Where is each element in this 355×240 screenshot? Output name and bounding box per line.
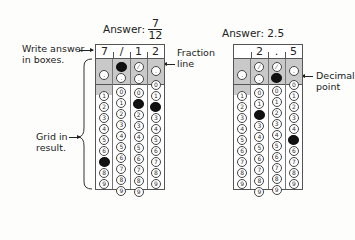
digit-bubble[interactable]: 9 bbox=[289, 179, 299, 189]
digit-bubble[interactable]: 7 bbox=[116, 164, 126, 174]
digit-bubble[interactable]: 0 bbox=[116, 87, 126, 97]
digit-bubble[interactable]: 7 bbox=[254, 165, 264, 175]
digit-bubble[interactable]: 7 bbox=[237, 157, 247, 167]
digit-bubble[interactable]: 5 bbox=[99, 135, 109, 145]
digit-bubble[interactable]: 6 bbox=[99, 146, 109, 156]
digit-bubble[interactable]: 2 bbox=[134, 110, 144, 120]
digit-bubble[interactable]: 1 bbox=[289, 91, 299, 101]
digit-bubble[interactable]: 2 bbox=[272, 108, 282, 118]
digit-bubble[interactable]: 6 bbox=[134, 154, 144, 164]
digit-bubble[interactable]: 8 bbox=[272, 174, 282, 184]
decimal-bubble-filled[interactable]: . bbox=[271, 73, 282, 83]
digit-bubble[interactable]: 9 bbox=[237, 179, 247, 189]
digit-bubble[interactable]: 1 bbox=[254, 99, 264, 109]
digit-bubble[interactable]: 6 bbox=[289, 146, 299, 156]
digit-bubble[interactable]: 0 bbox=[151, 80, 161, 90]
digit-bubble[interactable]: 9 bbox=[134, 187, 144, 197]
digit-bubble[interactable]: 9 bbox=[272, 185, 282, 195]
digit-bubble[interactable]: 0 bbox=[289, 80, 299, 90]
digit-bubble[interactable]: 7 bbox=[289, 157, 299, 167]
digit-bubble[interactable]: 8 bbox=[254, 176, 264, 186]
digit-bubble[interactable]: 8 bbox=[289, 168, 299, 178]
digit-bubble[interactable]: 4 bbox=[116, 131, 126, 141]
decimal-bubble[interactable]: . bbox=[99, 70, 109, 80]
digit-bubble[interactable]: 4 bbox=[237, 124, 247, 134]
digit-bubble[interactable]: 4 bbox=[272, 130, 282, 140]
digit-bubble[interactable]: 8 bbox=[99, 168, 109, 178]
digit-bubble[interactable]: 2 bbox=[116, 109, 126, 119]
answer-box[interactable]: 2 bbox=[251, 45, 268, 58]
digit-bubble-filled[interactable]: 1 bbox=[133, 99, 144, 109]
slash-bubble[interactable]: ⁄ bbox=[272, 62, 282, 72]
digit-bubble[interactable]: 0 bbox=[134, 88, 144, 98]
digit-bubble[interactable]: 1 bbox=[272, 97, 282, 107]
digit-bubble[interactable]: 5 bbox=[116, 142, 126, 152]
digit-bubble[interactable]: 3 bbox=[151, 113, 161, 123]
digit-bubble[interactable]: 1 bbox=[116, 98, 126, 108]
digit-bubble[interactable]: 7 bbox=[134, 165, 144, 175]
answer-box[interactable]: / bbox=[113, 45, 130, 58]
grid-column: ⁄ . 0 1 2 3 4 5 6 7 8 9 bbox=[113, 59, 130, 189]
digit-bubble[interactable]: 4 bbox=[134, 132, 144, 142]
digit-bubble[interactable]: 9 bbox=[254, 187, 264, 197]
digit-bubble[interactable]: 3 bbox=[134, 121, 144, 131]
digit-bubble[interactable]: 4 bbox=[99, 124, 109, 134]
slash-bubble[interactable]: ⁄ bbox=[134, 62, 144, 72]
digit-bubble[interactable]: 9 bbox=[116, 186, 126, 196]
digit-bubble[interactable]: 3 bbox=[116, 120, 126, 130]
digit-bubble-filled[interactable]: 5 bbox=[288, 135, 299, 145]
decimal-bubble[interactable]: . bbox=[254, 74, 264, 84]
digit-bubble[interactable]: 4 bbox=[254, 132, 264, 142]
digit-bubble[interactable]: 5 bbox=[134, 143, 144, 153]
digit-bubble[interactable]: 7 bbox=[272, 163, 282, 173]
digit-bubble-filled[interactable]: 7 bbox=[99, 157, 110, 167]
digit-bubble[interactable]: 9 bbox=[151, 179, 161, 189]
decimal-bubble[interactable]: . bbox=[289, 66, 299, 76]
digit-bubble[interactable]: 6 bbox=[151, 146, 161, 156]
digit-bubble[interactable]: 8 bbox=[151, 168, 161, 178]
decimal-bubble[interactable]: . bbox=[237, 70, 247, 80]
digit-bubble[interactable]: 2 bbox=[237, 102, 247, 112]
decimal-bubble[interactable]: . bbox=[116, 73, 126, 83]
slash-bubble[interactable]: ⁄ bbox=[254, 62, 264, 72]
digit-bubble[interactable]: 5 bbox=[272, 141, 282, 151]
digit-bubble[interactable]: 6 bbox=[237, 146, 247, 156]
digit-bubble[interactable]: 2 bbox=[289, 102, 299, 112]
digit-bubble[interactable]: 0 bbox=[254, 88, 264, 98]
digit-bubble[interactable]: 6 bbox=[254, 154, 264, 164]
digit-bubble[interactable]: 8 bbox=[116, 175, 126, 185]
digit-bubble[interactable]: 0 bbox=[272, 86, 282, 96]
digit-bubble[interactable]: 4 bbox=[151, 124, 161, 134]
digit-bubble[interactable]: 3 bbox=[237, 113, 247, 123]
digit-bubble[interactable]: 4 bbox=[289, 124, 299, 134]
digit-bubble[interactable]: 8 bbox=[237, 168, 247, 178]
digit-bubble[interactable]: 5 bbox=[237, 135, 247, 145]
digit-bubble[interactable]: 6 bbox=[272, 152, 282, 162]
digit-bubble[interactable]: 3 bbox=[272, 119, 282, 129]
digit-bubble[interactable]: 1 bbox=[237, 91, 247, 101]
digit-bubble[interactable]: 5 bbox=[254, 143, 264, 153]
answer-box[interactable]: 2 bbox=[147, 45, 164, 58]
digit-bubble[interactable]: 8 bbox=[134, 176, 144, 186]
digit-bubble[interactable]: 1 bbox=[99, 91, 109, 101]
digit-bubble[interactable]: 3 bbox=[289, 113, 299, 123]
answer-box[interactable]: 1 bbox=[130, 45, 147, 58]
answer-box[interactable] bbox=[234, 45, 251, 58]
digit-bubble[interactable]: 2 bbox=[99, 102, 109, 112]
slash-bubble-filled[interactable]: ⁄ bbox=[116, 62, 127, 72]
digit-bubble-filled[interactable]: 2 bbox=[150, 102, 161, 112]
digit-bubble-filled[interactable]: 2 bbox=[254, 110, 265, 120]
digit-bubble[interactable]: 3 bbox=[99, 113, 109, 123]
decimal-bubble[interactable]: . bbox=[151, 66, 161, 76]
answer-box[interactable]: 5 bbox=[285, 45, 302, 58]
decimal-bubble[interactable]: . bbox=[134, 74, 144, 84]
digit-bubble[interactable]: 7 bbox=[151, 157, 161, 167]
answer-box[interactable]: . bbox=[268, 45, 285, 58]
digit-bubble[interactable]: 1 bbox=[151, 91, 161, 101]
digit-bubble[interactable]: 6 bbox=[116, 153, 126, 163]
answer-box[interactable]: 7 bbox=[96, 45, 113, 58]
grid-column: ⁄ . 0 1 2 3 4 5 6 7 8 9 bbox=[131, 59, 148, 189]
digit-bubble[interactable]: 5 bbox=[151, 135, 161, 145]
digit-bubble[interactable]: 3 bbox=[254, 121, 264, 131]
digit-bubble[interactable]: 9 bbox=[99, 179, 109, 189]
